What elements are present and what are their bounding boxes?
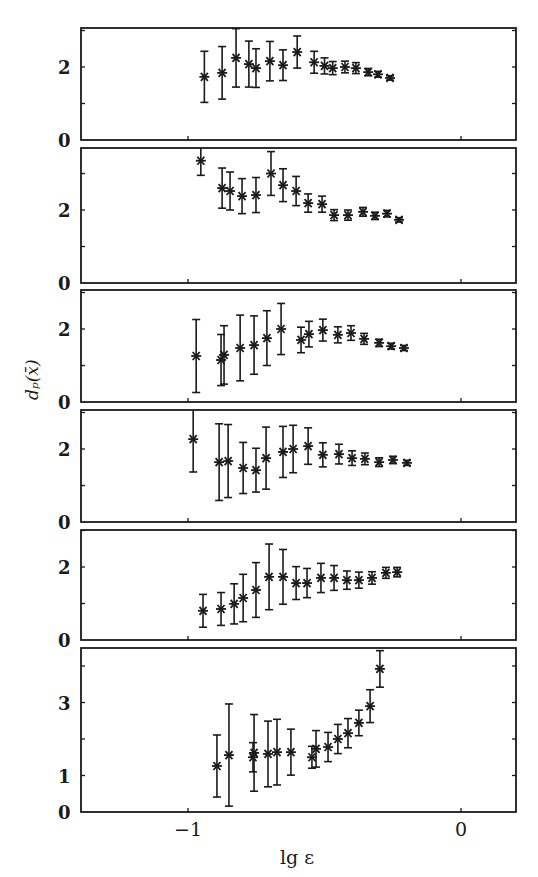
y-tick-label: 0 (58, 512, 71, 533)
panel-frame (81, 648, 516, 812)
data-point (249, 316, 259, 374)
data-point (224, 704, 234, 806)
panel-2 (81, 148, 516, 283)
data-point (217, 47, 227, 100)
data-point (198, 594, 208, 627)
panel-3 (81, 290, 516, 402)
x-tick-label: 0 (455, 818, 467, 840)
data-point (216, 593, 226, 626)
data-point (385, 74, 395, 82)
data-point (333, 724, 343, 753)
data-point (382, 210, 392, 218)
y-tick-label: 0 (58, 802, 71, 823)
panel-5 (81, 530, 516, 640)
data-point (291, 176, 301, 205)
data-point (309, 51, 319, 73)
data-point (229, 584, 239, 624)
data-point (402, 459, 412, 467)
y-tick-label: 1 (58, 765, 71, 786)
data-point (363, 68, 373, 76)
data-point (354, 572, 364, 588)
panel-frame (81, 148, 516, 283)
panel-1 (81, 28, 516, 140)
data-point (381, 567, 391, 578)
data-point (278, 169, 288, 202)
data-point (370, 212, 380, 220)
x-tick-label: −1 (174, 818, 202, 840)
data-point (288, 425, 298, 472)
data-point (399, 344, 409, 352)
data-point (303, 428, 313, 465)
data-point (386, 342, 396, 350)
data-point (286, 729, 296, 775)
data-point (278, 50, 288, 81)
data-point (263, 721, 273, 787)
data-point (292, 36, 302, 68)
data-point (272, 719, 282, 785)
data-point (316, 563, 326, 592)
data-point (261, 427, 271, 489)
data-point (323, 732, 333, 761)
data-point (388, 456, 398, 464)
y-tick-label: 3 (58, 692, 71, 713)
y-tick-label: 0 (58, 273, 71, 294)
data-point (358, 207, 368, 216)
data-point (334, 444, 344, 464)
data-point (214, 424, 224, 501)
data-point (343, 719, 353, 748)
data-point (251, 563, 261, 618)
data-point (237, 179, 247, 214)
data-point (251, 448, 261, 492)
data-point (375, 651, 385, 688)
data-point (225, 172, 235, 210)
data-point (278, 426, 288, 477)
data-point (373, 70, 383, 78)
data-point (235, 315, 245, 381)
data-point (360, 453, 370, 465)
y-tick-label: 2 (58, 557, 71, 578)
data-point (276, 303, 286, 354)
data-point (304, 321, 314, 347)
data-point (262, 311, 272, 366)
data-point (251, 49, 261, 88)
data-point (367, 572, 377, 584)
data-point (351, 63, 361, 74)
data-point (264, 544, 274, 610)
y-tick-label: 2 (58, 439, 71, 460)
data-point (342, 571, 352, 589)
data-point (238, 442, 248, 493)
data-point (328, 62, 338, 75)
data-point (266, 152, 276, 196)
y-tick-label: 2 (58, 319, 71, 340)
panel-4 (81, 410, 516, 522)
data-point (248, 743, 258, 772)
data-point (238, 574, 248, 621)
data-point (374, 339, 384, 347)
data-point (265, 41, 275, 80)
y-tick-label: 0 (58, 630, 71, 651)
data-point (188, 410, 198, 472)
data-point (365, 690, 375, 723)
data-point (231, 29, 241, 87)
data-point (340, 61, 350, 73)
data-point (346, 326, 356, 341)
data-point (249, 715, 259, 792)
y-axis-label: dₚ(x̄) (22, 359, 42, 400)
data-point (278, 549, 288, 604)
data-point (217, 168, 227, 208)
data-point (251, 178, 261, 213)
data-point (317, 196, 327, 212)
data-point (329, 210, 339, 221)
y-tick-label: 2 (58, 57, 71, 78)
panel-frame (81, 28, 516, 140)
data-point (374, 458, 384, 467)
data-point (359, 333, 369, 344)
multi-panel-errorbar-chart (0, 0, 538, 877)
data-point (212, 735, 222, 797)
data-point (196, 148, 206, 175)
data-point (343, 210, 353, 220)
data-point (303, 194, 313, 212)
data-point (302, 568, 312, 597)
y-tick-label: 0 (58, 392, 71, 413)
y-tick-label: 0 (58, 130, 71, 151)
